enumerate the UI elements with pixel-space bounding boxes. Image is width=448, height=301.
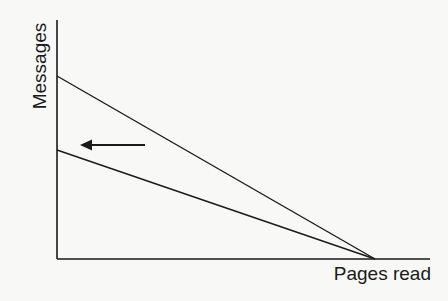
shift-arrow-icon: [80, 140, 145, 151]
x-axis-label: Pages read: [334, 263, 431, 285]
y-axis-label: Messages: [29, 23, 51, 110]
chart-area: Messages Pages read: [0, 0, 448, 301]
budget-line-shifted: [57, 150, 375, 259]
budget-line-original: [57, 76, 375, 259]
chart-svg: [0, 0, 448, 301]
